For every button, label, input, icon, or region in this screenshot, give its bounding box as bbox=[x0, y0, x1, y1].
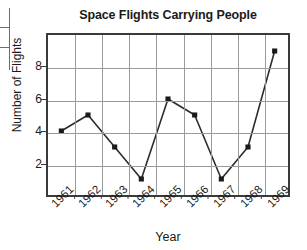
gridline-vertical bbox=[238, 35, 239, 195]
gridline-horizontal bbox=[48, 68, 288, 69]
data-point-marker bbox=[112, 144, 117, 149]
data-point-marker bbox=[85, 112, 90, 117]
x-axis-tick-labels: 196119621963196419651966196719681969 bbox=[46, 197, 290, 233]
gridline-vertical bbox=[211, 35, 212, 195]
series-line bbox=[61, 51, 274, 179]
data-point-marker bbox=[219, 176, 224, 181]
data-point-marker bbox=[245, 144, 250, 149]
data-point-marker bbox=[139, 176, 144, 181]
y-axis-title: Number of Flights bbox=[10, 27, 24, 143]
gridline-vertical bbox=[129, 35, 130, 195]
data-series bbox=[48, 35, 288, 195]
gridline-vertical bbox=[184, 35, 185, 195]
line-chart-figure: Space Flights Carrying People Number of … bbox=[0, 0, 307, 250]
plot-area bbox=[46, 33, 290, 197]
data-point-marker bbox=[272, 48, 277, 53]
gridline-vertical bbox=[102, 35, 103, 195]
x-axis-title: Year bbox=[46, 230, 290, 244]
gridline-vertical bbox=[265, 35, 266, 195]
chart-title: Space Flights Carrying People bbox=[46, 8, 290, 22]
gridline-horizontal bbox=[48, 101, 288, 102]
gridline-horizontal bbox=[48, 133, 288, 134]
data-point-marker bbox=[192, 112, 197, 117]
gridline-vertical bbox=[156, 35, 157, 195]
gridline-vertical bbox=[75, 35, 76, 195]
gridline-horizontal bbox=[48, 166, 288, 167]
